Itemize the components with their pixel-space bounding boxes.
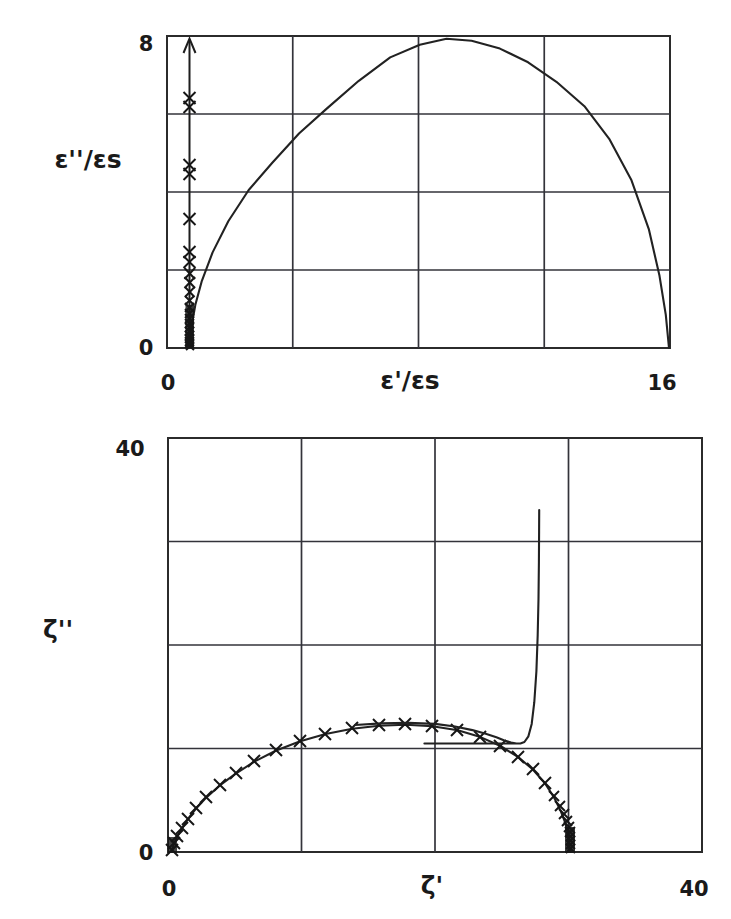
top-ytick-max-label: 8: [139, 32, 154, 56]
bottom-electrode-branch: [355, 510, 539, 744]
top-ytick-min-label: 0: [139, 336, 154, 360]
top-y-axis-label: ε''/εs: [54, 145, 121, 174]
top-xtick-min-label: 0: [161, 371, 176, 395]
top-xtick-max-label: 16: [647, 371, 676, 395]
bottom-xtick-max-label: 40: [679, 877, 708, 901]
bottom-x-axis-label: ζ': [421, 871, 443, 900]
chart-bottom-panel: 40 0 0 40 ζ'' ζ': [0, 420, 731, 919]
bottom-y-axis-label: ζ'': [43, 615, 73, 644]
top-x-axis-label: ε'/εs: [380, 366, 440, 395]
bottom-xtick-min-label: 0: [162, 877, 177, 901]
top-panel-svg: 8 0 0 16 ε''/εs ε'/εs: [0, 0, 731, 420]
bottom-ytick-max-label: 40: [115, 437, 144, 461]
figure-container: 8 0 0 16 ε''/εs ε'/εs: [0, 0, 731, 919]
top-dispersion-arc: [190, 39, 669, 348]
bottom-marker-group: [166, 718, 575, 856]
bottom-ytick-min-label: 0: [139, 841, 154, 865]
bottom-panel-svg: 40 0 0 40 ζ'' ζ': [0, 420, 731, 919]
chart-top-panel: 8 0 0 16 ε''/εs ε'/εs: [0, 0, 731, 420]
